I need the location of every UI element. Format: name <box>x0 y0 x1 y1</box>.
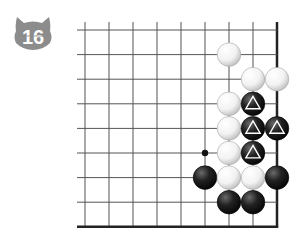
white-stone-body <box>241 166 265 190</box>
white-stone-body <box>217 166 241 190</box>
white-stone-body <box>217 141 241 165</box>
white-stone <box>241 67 265 91</box>
black-stone <box>265 166 289 190</box>
point-marker-dot <box>202 150 208 156</box>
white-stone <box>265 67 289 91</box>
black-stone <box>241 92 265 116</box>
go-board <box>0 0 307 242</box>
white-stone <box>217 166 241 190</box>
black-stone <box>241 141 265 165</box>
black-stone <box>241 190 265 214</box>
white-stone-body <box>217 43 241 67</box>
white-stone-body <box>241 67 265 91</box>
black-stone-body <box>193 166 217 190</box>
black-stone <box>217 190 241 214</box>
black-stone-body <box>217 190 241 214</box>
white-stone-body <box>265 67 289 91</box>
black-stone-body <box>265 166 289 190</box>
board-markers <box>202 150 208 156</box>
white-stone-body <box>217 117 241 141</box>
white-stone-body <box>217 92 241 116</box>
white-stone <box>217 117 241 141</box>
black-stone <box>193 166 217 190</box>
black-stone-body <box>241 190 265 214</box>
black-stone <box>265 117 289 141</box>
white-stone <box>217 92 241 116</box>
black-stone <box>241 117 265 141</box>
white-stone <box>217 141 241 165</box>
white-stone <box>241 166 265 190</box>
white-stone <box>217 43 241 67</box>
